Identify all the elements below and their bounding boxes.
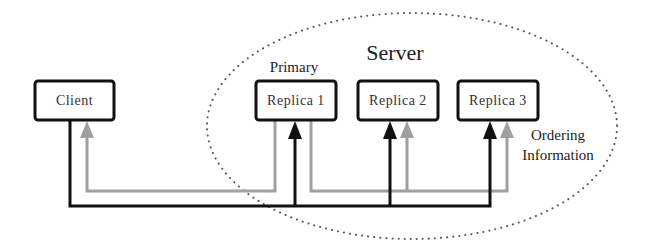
request-edge-client-bus [70,121,490,206]
replication-diagram: Server Primary Ordering Information Clie… [0,0,651,245]
replica1-label: Replica 1 [267,93,325,108]
replica2-label: Replica 2 [369,93,427,108]
ordering-label-line2: Information [522,147,594,163]
node-replica2: Replica 2 [358,81,438,120]
arrowhead-replica3-gray [500,121,514,138]
client-label: Client [56,93,93,108]
node-client: Client [35,81,114,120]
request-lines [70,121,490,206]
arrowhead-replica2-black [383,121,397,139]
primary-label: Primary [270,59,319,75]
ordering-label-line1: Ordering [531,127,586,143]
arrowhead-replica1-black [288,121,302,139]
response-edge-replica1-to-client [87,121,275,191]
node-replica1: Replica 1 [256,81,336,120]
node-replica3: Replica 3 [458,81,538,120]
arrowhead-replica3-black [483,121,497,139]
arrowhead-replica2-gray [400,121,414,138]
black-arrowheads [288,121,497,139]
arrowhead-client-gray [80,121,94,138]
replica3-label: Replica 3 [469,93,527,108]
server-label: Server [366,40,424,65]
